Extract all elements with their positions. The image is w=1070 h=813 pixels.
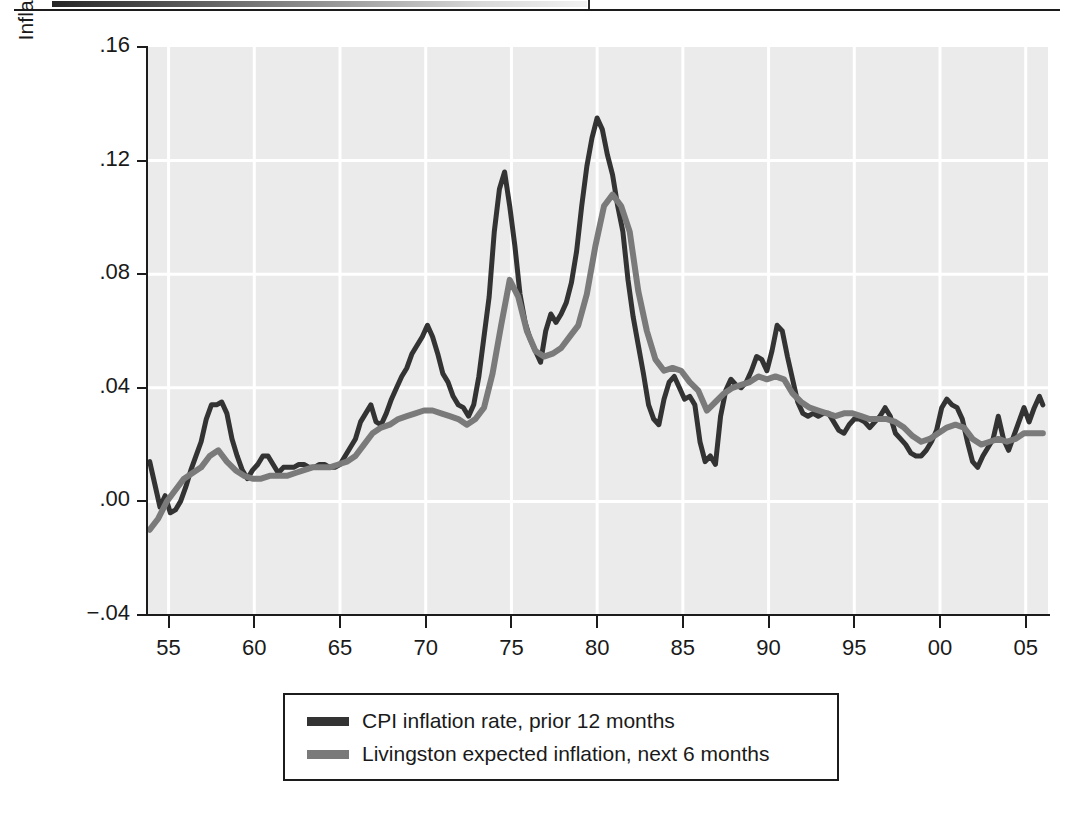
x-tick-label: 80 — [571, 635, 623, 661]
y-axis-title-label: Inflation rate (per year) — [14, 0, 38, 133]
legend-label-livingston: Livingston expected inflation, next 6 mo… — [362, 742, 769, 766]
y-tick-mark — [137, 614, 148, 616]
x-tick-label: 00 — [914, 635, 966, 661]
y-tick-label: .16 — [60, 32, 130, 58]
x-tick-label: 95 — [828, 635, 880, 661]
page-header-rule — [0, 0, 1070, 13]
y-tick-label: −.04 — [60, 600, 130, 626]
x-tick-mark — [510, 616, 512, 628]
x-tick-label: 60 — [228, 635, 280, 661]
x-tick-mark — [596, 616, 598, 628]
x-tick-label: 85 — [657, 635, 709, 661]
x-tick-mark — [339, 616, 341, 628]
y-axis-line — [146, 46, 148, 616]
legend-item-livingston: Livingston expected inflation, next 6 mo… — [307, 738, 769, 770]
x-tick-mark — [1025, 616, 1027, 628]
y-tick-mark — [137, 273, 148, 275]
page-header-line — [14, 9, 1060, 11]
y-axis-title: Inflation rate (per year) — [14, 0, 44, 133]
x-tick-mark — [682, 616, 684, 628]
x-tick-mark — [168, 616, 170, 628]
plot-area — [148, 47, 1048, 615]
y-tick-label: .08 — [60, 259, 130, 285]
legend-label-cpi: CPI inflation rate, prior 12 months — [362, 709, 675, 733]
x-tick-label: 70 — [400, 635, 452, 661]
x-tick-mark — [853, 616, 855, 628]
x-tick-mark — [768, 616, 770, 628]
y-tick-mark — [137, 500, 148, 502]
x-tick-label: 65 — [314, 635, 366, 661]
inflation-chart-figure: Inflation rate (per year) .16.12.08.04.0… — [0, 13, 1070, 813]
y-tick-mark — [137, 46, 148, 48]
legend-swatch-livingston — [307, 750, 349, 759]
y-tick-label: .00 — [60, 486, 130, 512]
x-tick-mark — [939, 616, 941, 628]
x-tick-label: 90 — [743, 635, 795, 661]
legend-swatch-cpi — [307, 717, 349, 726]
x-tick-label: 55 — [143, 635, 195, 661]
y-tick-label: .12 — [60, 146, 130, 172]
legend-item-cpi: CPI inflation rate, prior 12 months — [307, 705, 675, 737]
vertical-gridlines — [169, 47, 1026, 615]
y-tick-mark — [137, 160, 148, 162]
x-tick-label: 05 — [1000, 635, 1052, 661]
legend: CPI inflation rate, prior 12 months Livi… — [283, 693, 839, 781]
y-tick-label: .04 — [60, 373, 130, 399]
x-tick-mark — [253, 616, 255, 628]
x-tick-label: 75 — [485, 635, 537, 661]
plot-canvas — [148, 47, 1048, 615]
page-header-gradient-bar — [52, 1, 587, 7]
x-tick-mark — [425, 616, 427, 628]
y-tick-mark — [137, 387, 148, 389]
page-header-tick — [588, 0, 590, 9]
